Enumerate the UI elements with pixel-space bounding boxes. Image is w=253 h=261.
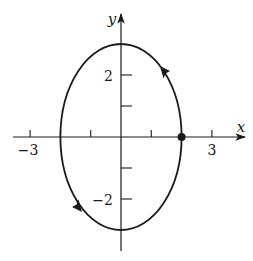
x-tick-label-neg3: −3 bbox=[18, 142, 39, 158]
y-tick-label-neg2: −2 bbox=[92, 192, 113, 208]
start-point-dot bbox=[178, 133, 186, 141]
y-axis-label: y bbox=[107, 10, 117, 28]
direction-arrow-upper-right-icon bbox=[160, 66, 170, 79]
ellipse-diagram: −3 3 x 2 −2 y bbox=[0, 0, 253, 261]
x-axis-label: x bbox=[237, 118, 246, 136]
x-axis: −3 3 x bbox=[13, 118, 246, 158]
x-tick-label-3: 3 bbox=[208, 142, 217, 158]
y-axis: 2 −2 y bbox=[92, 10, 132, 251]
y-tick-label-2: 2 bbox=[104, 68, 113, 84]
